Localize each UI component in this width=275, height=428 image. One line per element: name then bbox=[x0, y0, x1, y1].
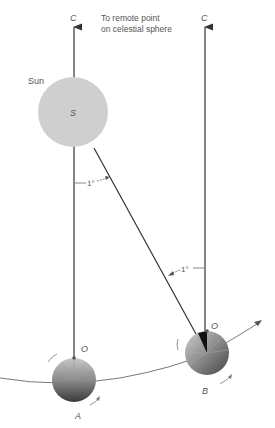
sun-to-b-line bbox=[94, 148, 196, 334]
c-label-right: C bbox=[201, 13, 208, 23]
celestial-diagram: Sun S C C To remote point on celestial s… bbox=[0, 0, 275, 428]
angle-label-top: 1° bbox=[87, 179, 95, 188]
earth-a-label: A bbox=[74, 411, 81, 421]
angle-label-bottom: 1° bbox=[181, 265, 189, 274]
remote-point-caption-1: To remote point bbox=[101, 13, 160, 23]
earth-b-label: B bbox=[202, 386, 208, 396]
c-label-left: C bbox=[70, 13, 77, 23]
earth-a bbox=[52, 356, 96, 402]
o-label-right: O bbox=[211, 321, 218, 331]
sun-center-label: S bbox=[70, 108, 76, 118]
earth-b bbox=[185, 329, 229, 375]
sun-label: Sun bbox=[28, 76, 44, 86]
remote-point-caption-2: on celestial sphere bbox=[101, 24, 172, 34]
o-label-left: O bbox=[81, 344, 88, 354]
